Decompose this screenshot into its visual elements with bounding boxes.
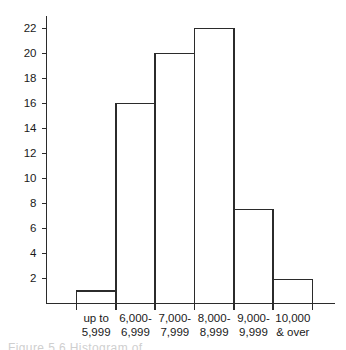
x-category-label: up to5,999 (82, 312, 111, 338)
y-tick-label: 2 (30, 272, 36, 284)
histogram-bar (77, 291, 116, 304)
x-axis-tick-labels: up to5,9996,000-6,9997,000-7,9998,000-8,… (82, 312, 311, 338)
figure-caption: Figure 5.6 Histogram of ... (8, 341, 338, 350)
x-category-label: 6,000-6,999 (119, 312, 152, 338)
histogram-chart: 246810121416182022 up to5,9996,000-6,999… (0, 0, 346, 350)
histogram-bar (234, 210, 273, 304)
x-axis-tick-marks (77, 304, 313, 310)
y-tick-label: 18 (24, 72, 37, 84)
histogram-bar (116, 104, 155, 304)
histogram-bar (195, 29, 234, 304)
y-axis-tick-labels: 246810121416182022 (24, 22, 37, 284)
y-tick-label: 22 (24, 22, 37, 34)
histogram-bar (155, 54, 194, 304)
x-category-label: 8,000-8,999 (198, 312, 231, 338)
y-tick-label: 20 (24, 47, 37, 59)
x-category-label: 10,000& over (275, 312, 310, 338)
y-tick-label: 10 (24, 172, 37, 184)
bars-group (77, 29, 313, 304)
x-category-label: 7,000-7,999 (159, 312, 192, 338)
y-tick-label: 6 (30, 222, 36, 234)
y-tick-label: 12 (24, 147, 37, 159)
y-tick-label: 14 (24, 122, 37, 134)
y-tick-label: 4 (30, 247, 37, 259)
histogram-svg: 246810121416182022 up to5,9996,000-6,999… (0, 0, 346, 350)
x-category-label: 9,000-9,999 (237, 312, 270, 338)
histogram-bar (273, 280, 312, 304)
y-tick-label: 8 (30, 197, 36, 209)
y-tick-label: 16 (24, 97, 37, 109)
